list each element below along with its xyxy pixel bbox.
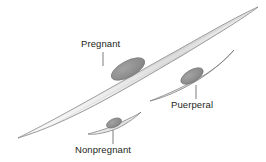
cell-puerperal-nucleus — [178, 64, 206, 87]
label-nonpregnant: Nonpregnant — [75, 144, 131, 155]
cell-illustration-svg — [0, 0, 266, 162]
label-puerperal: Puerperal — [171, 99, 213, 110]
label-pregnant: Pregnant — [81, 38, 120, 49]
cell-pregnant — [12, 1, 264, 145]
cell-puerperal — [146, 45, 237, 106]
muscle-cell-size-diagram: Pregnant Puerperal Nonpregnant — [0, 0, 266, 162]
cell-nonpregnant — [86, 108, 145, 144]
